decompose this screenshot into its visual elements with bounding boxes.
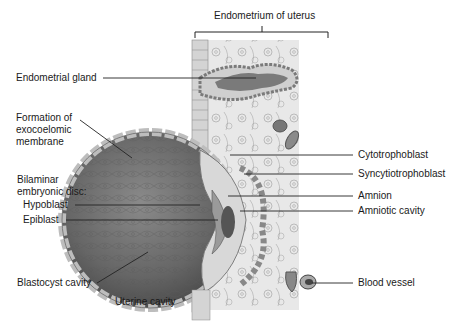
label-exocoelomic-line3: membrane	[16, 136, 72, 148]
label-bilaminar-line2: embryonic disc:	[17, 186, 86, 198]
label-blastocyst-cavity: Blastocyst cavity	[17, 277, 91, 289]
label-hypoblast: Hypoblast	[23, 199, 67, 211]
label-endometrial-gland: Endometrial gland	[16, 72, 97, 84]
label-amniotic-cavity: Amniotic cavity	[358, 205, 425, 217]
blood-vessel-lower	[286, 272, 316, 292]
label-exocoelomic-membrane: Formation of exocoelomic membrane	[16, 112, 72, 148]
label-epiblast: Epiblast	[23, 214, 59, 226]
label-bilaminar-line1: Bilaminar	[17, 174, 86, 186]
label-blood-vessel: Blood vessel	[358, 277, 415, 289]
label-amnion: Amnion	[358, 190, 392, 202]
label-endometrium-of-uterus: Endometrium of uterus	[214, 10, 315, 22]
label-uterine-cavity: Uterine cavity	[115, 296, 176, 308]
label-syncytiotrophoblast: Syncytiotrophoblast	[358, 168, 445, 180]
label-exocoelomic-line1: Formation of	[16, 112, 72, 124]
endometrium-bracket	[195, 26, 328, 38]
label-exocoelomic-line2: exocoelomic	[16, 124, 72, 136]
label-bilaminar-embryonic-disc: Bilaminar embryonic disc:	[17, 174, 86, 198]
label-cytotrophoblast: Cytotrophoblast	[358, 149, 428, 161]
